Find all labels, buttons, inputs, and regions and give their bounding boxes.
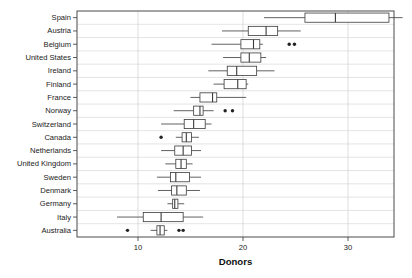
box-italy [117, 212, 203, 221]
box-body [305, 13, 389, 22]
box-australia [126, 226, 185, 235]
y-tick-label-canada: Canada [44, 133, 71, 142]
box-united-states [223, 53, 266, 62]
y-tick-label-france: France [47, 93, 71, 102]
outlier-point [288, 43, 291, 46]
y-tick-label-australia: Australia [41, 226, 71, 235]
box-spain [264, 13, 403, 22]
box-body [194, 106, 203, 115]
box-body [224, 80, 246, 89]
box-finland [214, 80, 249, 89]
box-body [172, 186, 187, 195]
outlier-point [159, 136, 162, 139]
box-body [171, 173, 190, 182]
y-tick-label-austria: Austria [47, 26, 71, 35]
box-body [143, 212, 183, 221]
box-body [248, 26, 277, 35]
box-germany [167, 199, 184, 208]
x-tick-label-30: 30 [344, 243, 352, 252]
box-body [241, 40, 260, 49]
box-canada [159, 133, 198, 142]
y-tick-label-norway: Norway [45, 106, 71, 115]
box-switzerland [161, 119, 211, 128]
y-tick-label-ireland: Ireland [48, 66, 71, 75]
box-body [241, 53, 261, 62]
box-united-kingdom [165, 159, 192, 168]
y-tick-label-denmark: Denmark [40, 186, 71, 195]
box-netherlands [161, 146, 201, 155]
y-tick-label-italy: Italy [57, 213, 71, 222]
y-tick-label-finland: Finland [46, 80, 71, 89]
y-tick-label-sweden: Sweden [44, 173, 71, 182]
outlier-point [293, 43, 296, 46]
y-tick-label-germany: Germany [40, 199, 71, 208]
outlier-point [181, 229, 184, 232]
box-denmark [158, 186, 200, 195]
box-ireland [208, 66, 274, 75]
box-norway [174, 106, 235, 115]
outlier-point [223, 109, 226, 112]
x-tick-label-10: 10 [134, 243, 142, 252]
y-tick-label-netherlands: Netherlands [30, 146, 71, 155]
box-belgium [212, 40, 297, 49]
box-body [184, 119, 205, 128]
outlier-point [177, 229, 180, 232]
y-tick-label-switzerland: Switzerland [32, 120, 71, 129]
plot-frame [77, 11, 394, 237]
y-tick-label-spain: Spain [52, 13, 71, 22]
outlier-point [231, 109, 234, 112]
box-france [191, 93, 247, 102]
boxplot-svg: SpainAustriaBelgiumUnited StatesIrelandF… [0, 0, 412, 278]
outlier-point [126, 229, 129, 232]
y-tick-label-belgium: Belgium [44, 40, 71, 49]
boxplot-chart: SpainAustriaBelgiumUnited StatesIrelandF… [0, 0, 412, 278]
x-axis-title: Donors [219, 256, 253, 267]
box-body [200, 93, 217, 102]
box-sweden [157, 173, 201, 182]
box-austria [222, 26, 301, 35]
x-tick-label-20: 20 [239, 243, 247, 252]
y-tick-label-united-states: United States [25, 53, 71, 62]
y-tick-label-united-kingdom: United Kingdom [17, 159, 71, 168]
box-body [227, 66, 256, 75]
